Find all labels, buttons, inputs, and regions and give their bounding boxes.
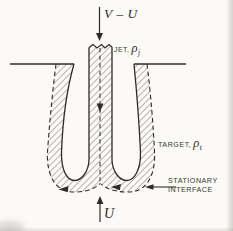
stationary-interface-caption-line2: INTERFACE — [168, 186, 218, 195]
jet-velocity-label: V – U — [104, 6, 138, 22]
target-density-label: TARGET, ρt — [158, 136, 202, 152]
incoming-jet-arrow-icon — [96, 7, 103, 41]
target-label-text: TARGET, — [158, 140, 191, 149]
jet-label-text: JET, — [114, 46, 129, 53]
jet-penetration-figure: V – U JET, ρj TARGET, ρt STATIONARY INTE… — [0, 0, 233, 231]
target-velocity-up-arrow-icon — [97, 196, 104, 222]
target-density-symbol: ρt — [193, 136, 202, 152]
diagram-canvas — [0, 0, 233, 231]
jet-density-label: JET, ρj — [114, 41, 140, 57]
jet-density-symbol: ρj — [131, 41, 140, 57]
target-velocity-label: U — [104, 206, 114, 222]
stationary-interface-caption: STATIONARY INTERFACE — [168, 177, 218, 194]
